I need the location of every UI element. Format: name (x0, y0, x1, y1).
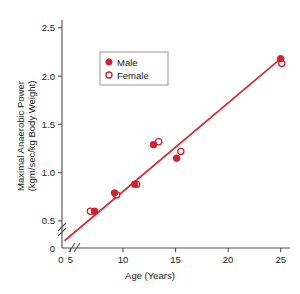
y-tick-label: 1.0 (42, 167, 55, 178)
x-tick-label: 10 (118, 254, 129, 265)
legend-marker-female (106, 72, 112, 78)
legend-label-female: Female (117, 70, 149, 81)
chart-canvas: 0.51.01.52.02.505101520250Age (Years)Max… (0, 0, 300, 294)
x-axis-title: Age (Years) (125, 270, 175, 281)
x-tick-label: 20 (223, 254, 234, 265)
data-point-male (131, 181, 138, 188)
data-point-male (173, 155, 180, 162)
x-origin-label: 0 (58, 254, 63, 265)
x-tick-label: 5 (68, 254, 73, 265)
x-tick-label: 25 (275, 254, 286, 265)
x-tick-label: 15 (170, 254, 181, 265)
y-axis-title-line2: (kgm/sec/kg Body Weight) (26, 81, 37, 192)
y-tick-label: 2.0 (42, 71, 55, 82)
y-tick-label: 2.5 (42, 22, 55, 33)
legend-label-male: Male (117, 57, 138, 68)
data-point-male (277, 55, 284, 62)
legend-marker-male (106, 59, 112, 65)
y-axis-title-line1: Maximal Anaerobic Power (15, 81, 26, 191)
y-tick-label: 1.5 (42, 119, 55, 130)
data-point-male (150, 141, 157, 148)
y-tick-label: 0.5 (42, 215, 55, 226)
y-origin-label: 0 (50, 243, 55, 254)
data-point-male (91, 208, 98, 215)
data-point-female (178, 148, 184, 154)
anaerobic-power-chart: 0.51.01.52.02.505101520250Age (Years)Max… (0, 0, 300, 294)
data-point-male (111, 190, 118, 197)
